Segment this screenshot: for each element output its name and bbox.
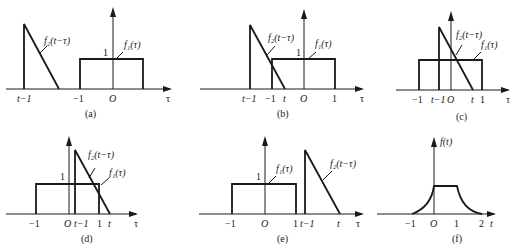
- panel-a: f₂(t−τ) f₁(τ) 1 t−1 −1 O τ (a): [6, 7, 172, 120]
- height-label: 1: [60, 171, 65, 182]
- height-label: 1: [296, 47, 301, 58]
- caption-c: (c): [456, 111, 467, 123]
- tick-t: t: [283, 93, 286, 104]
- caption-b: (b): [277, 108, 289, 120]
- tick-minus-1: −1: [405, 218, 416, 229]
- f1-rectangle: [80, 59, 143, 89]
- panel-c: f₂(t−τ) f₁(τ) −1 t−1 O t 1 τ (c): [396, 11, 510, 123]
- tick-origin: O: [430, 218, 437, 229]
- tau-axis-arrow-icon: [355, 211, 364, 217]
- f1-label: f₁(τ): [315, 38, 332, 50]
- tick-origin: O: [300, 93, 307, 104]
- output-curve: [412, 186, 482, 214]
- tick-t-minus-1: t−1: [17, 93, 32, 104]
- tick-minus-1: −1: [29, 218, 40, 229]
- f1-rectangle: [36, 184, 99, 214]
- tau-axis-arrow-icon: [501, 87, 510, 93]
- tick-t-minus-1: t−1: [242, 93, 257, 104]
- caption-d: (d): [81, 233, 93, 245]
- f2-triangle: [24, 24, 59, 89]
- tick-1: 1: [97, 218, 102, 229]
- tick-minus-1: −1: [265, 93, 276, 104]
- tick-1: 1: [332, 93, 337, 104]
- tick-2: 2: [479, 218, 484, 229]
- vertical-axis-arrow-icon: [110, 7, 116, 17]
- tick-origin: O: [261, 218, 268, 229]
- tick-1: 1: [480, 94, 485, 105]
- tick-t: t: [337, 218, 340, 229]
- convolution-diagram: f₂(t−τ) f₁(τ) 1 t−1 −1 O τ (a) f₂(t−τ) f…: [0, 0, 517, 251]
- tick-minus-1: −1: [412, 94, 423, 105]
- t-axis-arrow-icon: [487, 211, 496, 217]
- vertical-axis-arrow-icon: [448, 11, 454, 21]
- f1-leader-line: [268, 176, 276, 184]
- axis-label-tau: τ: [356, 218, 360, 229]
- tau-axis-arrow-icon: [163, 86, 172, 92]
- f2-leader-line: [323, 171, 332, 180]
- tick-origin: O: [109, 93, 116, 104]
- tick-t-minus-1: t−1: [74, 218, 89, 229]
- tick-t: t: [108, 218, 111, 229]
- vertical-axis-arrow-icon: [431, 137, 437, 147]
- f2-label: f₂(t−τ): [456, 29, 483, 41]
- f2-label: f₂(t−τ): [330, 158, 357, 170]
- vertical-axis-arrow-icon: [66, 136, 72, 146]
- caption-a: (a): [85, 108, 96, 120]
- f1-rectangle: [232, 184, 296, 214]
- f1-label: f₁(τ): [124, 39, 141, 51]
- f2-leader-line: [267, 46, 275, 55]
- height-label: 1: [256, 171, 261, 182]
- tick-origin: O: [447, 94, 454, 105]
- f2-leader-line: [456, 45, 462, 55]
- tick-1: 1: [293, 218, 298, 229]
- axis-label-tau: τ: [134, 218, 138, 229]
- tick-1: 1: [454, 218, 459, 229]
- axis-label-tau: τ: [360, 93, 364, 104]
- panel-e: f₁(τ) 1 f₂(t−τ) −1 O 1 t−1 t τ (e): [199, 136, 364, 245]
- f2-leader-line: [89, 168, 95, 178]
- axis-label-t: t: [490, 218, 493, 229]
- tick-t-minus-1: t−1: [300, 218, 315, 229]
- f1-label: f₁(τ): [109, 167, 126, 179]
- height-label: 1: [103, 47, 108, 58]
- f1-leader-line: [473, 52, 481, 60]
- panel-b: f₂(t−τ) f₁(τ) 1 t−1 −1 t O 1 τ (b): [200, 9, 364, 120]
- f1-leader-line: [308, 52, 316, 59]
- caption-f: (f): [452, 233, 462, 245]
- f2-label: f₂(t−τ): [88, 149, 115, 161]
- f1-leader-line: [101, 178, 109, 185]
- tick-t: t: [471, 94, 474, 105]
- vertical-axis-arrow-icon: [262, 136, 268, 146]
- panel-d: f₂(t−τ) f₁(τ) 1 −1 O t−1 1 t τ (d): [6, 136, 138, 245]
- f1-label: f₁(τ): [276, 163, 293, 175]
- f1-leader-line: [116, 52, 123, 59]
- axis-label-tau: τ: [166, 93, 170, 104]
- y-axis-label: f(t): [440, 136, 453, 148]
- tick-minus-1: −1: [73, 93, 84, 104]
- tau-axis-arrow-icon: [129, 211, 138, 217]
- f2-label: f₂(t−τ): [268, 32, 295, 44]
- f1-label: f₁(τ): [481, 39, 498, 51]
- vertical-axis-arrow-icon: [301, 9, 307, 19]
- f2-leader-line: [40, 46, 47, 53]
- axis-label-tau: τ: [506, 94, 510, 105]
- f2-label: f₂(t−τ): [44, 35, 71, 47]
- tau-axis-arrow-icon: [355, 86, 364, 92]
- panel-f: f(t) −1 O 1 2 t (f): [377, 136, 496, 245]
- caption-e: (e): [277, 233, 288, 245]
- tick-t-minus-1: t−1: [431, 94, 446, 105]
- tick-minus-1: −1: [225, 218, 236, 229]
- tick-origin: O: [64, 218, 71, 229]
